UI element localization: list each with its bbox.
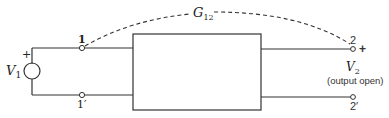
terminal-2 [351,47,356,52]
terminal-1-prime [79,92,84,97]
source-polarity-plus: + [22,48,31,61]
voltage-source-v1 [24,48,79,95]
terminal-2-prime-label: 2′ [350,100,358,112]
source-label: V1 [6,63,21,80]
output-polarity-plus: + [359,42,366,56]
two-port-diagram: + V1 1 1′ 2 + 2′ V2 (output open) G12 [0,0,389,118]
transfer-arc-left [85,14,190,46]
terminal-2-prime [351,95,356,100]
output-voltage-label: V2 [346,60,360,76]
transfer-arc-right [214,12,350,44]
terminal-1 [79,45,84,50]
output-open-note: (output open) [327,75,384,86]
terminal-2-label: 2 [350,34,356,46]
two-port-box [133,34,261,110]
transfer-label: G12 [193,5,214,22]
terminal-1-prime-label: 1′ [77,98,87,111]
terminal-1-label: 1 [78,33,86,46]
source-circle-icon [24,63,40,79]
